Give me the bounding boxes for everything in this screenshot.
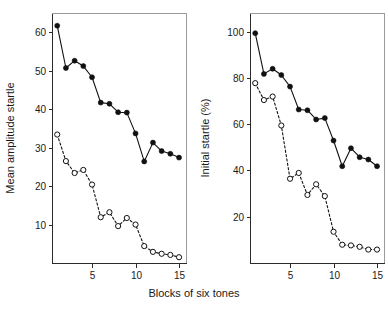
data-point-left-filled-circles-solid-2: [63, 66, 68, 71]
y-axis-title-left: Mean amplitude startle: [4, 82, 16, 193]
y-tick-label-right-100: 100: [227, 27, 244, 38]
y-tick-label-right-60: 60: [233, 119, 245, 130]
x-tick-label-right-5: 5: [288, 270, 294, 281]
data-point-right-filled-circles-solid-13: [357, 155, 362, 160]
x-tick-label-left-15: 15: [174, 270, 186, 281]
data-point-left-filled-circles-solid-6: [98, 100, 103, 105]
x-tick-label-left-5: 5: [90, 270, 96, 281]
data-point-right-filled-circles-solid-2: [261, 71, 266, 76]
data-point-right-open-circles-dashed-8: [314, 182, 319, 187]
data-point-right-open-circles-dashed-1: [253, 81, 258, 86]
y-tick-label-right-20: 20: [233, 212, 245, 223]
data-point-right-open-circles-dashed-7: [305, 192, 310, 197]
data-point-left-filled-circles-solid-7: [107, 101, 112, 106]
data-point-left-filled-circles-solid-15: [177, 155, 182, 160]
data-point-left-open-circles-dashed-11: [142, 243, 147, 248]
y-tick-label-left-10: 10: [35, 220, 47, 231]
data-point-left-filled-circles-solid-9: [124, 110, 129, 115]
data-point-left-open-circles-dashed-5: [89, 182, 94, 187]
data-point-left-open-circles-dashed-12: [150, 249, 155, 254]
y-tick-label-right-80: 80: [233, 73, 245, 84]
data-point-left-open-circles-dashed-3: [72, 170, 77, 175]
data-point-left-filled-circles-solid-14: [168, 151, 173, 156]
data-point-right-filled-circles-solid-8: [314, 117, 319, 122]
y-tick-label-left-20: 20: [35, 181, 47, 192]
y-tick-label-left-60: 60: [35, 27, 47, 38]
y-tick-label-left-30: 30: [35, 143, 47, 154]
data-point-left-open-circles-dashed-15: [176, 255, 181, 260]
series-line-left-filled-circles-solid: [57, 26, 179, 162]
data-point-right-filled-circles-solid-14: [366, 157, 371, 162]
data-point-left-open-circles-dashed-8: [116, 223, 121, 228]
data-point-right-filled-circles-solid-3: [270, 66, 275, 71]
data-point-right-filled-circles-solid-15: [375, 164, 380, 169]
y-axis-title-right: Initial startle (%): [199, 99, 211, 178]
data-point-right-open-circles-dashed-2: [261, 97, 266, 102]
data-point-left-filled-circles-solid-3: [72, 58, 77, 63]
data-point-right-open-circles-dashed-12: [348, 243, 353, 248]
shared-x-axis-title: Blocks of six tones: [148, 287, 240, 299]
plot-frame-right: [251, 14, 385, 264]
data-point-left-filled-circles-solid-8: [116, 110, 121, 115]
data-point-right-filled-circles-solid-12: [348, 146, 353, 151]
data-point-left-filled-circles-solid-13: [159, 149, 164, 154]
data-point-left-filled-circles-solid-12: [150, 140, 155, 145]
data-point-left-open-circles-dashed-13: [159, 251, 164, 256]
panel-left: 10203040506051015Mean amplitude startle: [4, 14, 187, 282]
data-point-left-filled-circles-solid-5: [90, 75, 95, 80]
data-point-right-filled-circles-solid-10: [331, 138, 336, 143]
panel-right: 2040608010051015Initial startle (%): [199, 14, 385, 282]
y-tick-label-left-40: 40: [35, 104, 47, 115]
data-point-right-open-circles-dashed-14: [366, 247, 371, 252]
data-point-left-open-circles-dashed-7: [107, 210, 112, 215]
data-point-left-open-circles-dashed-14: [168, 252, 173, 257]
data-point-right-open-circles-dashed-13: [357, 244, 362, 249]
data-point-left-filled-circles-solid-4: [81, 64, 86, 69]
data-point-right-open-circles-dashed-4: [279, 123, 284, 128]
data-point-right-filled-circles-solid-9: [322, 116, 327, 121]
two-panel-line-chart: 10203040506051015Mean amplitude startle2…: [0, 0, 388, 311]
data-point-left-open-circles-dashed-9: [124, 215, 129, 220]
data-point-left-open-circles-dashed-6: [98, 215, 103, 220]
data-point-left-open-circles-dashed-4: [81, 167, 86, 172]
data-point-right-filled-circles-solid-11: [340, 164, 345, 169]
data-point-right-open-circles-dashed-3: [270, 94, 275, 99]
x-tick-label-right-10: 10: [329, 270, 341, 281]
data-point-left-filled-circles-solid-11: [142, 159, 147, 164]
x-tick-label-left-10: 10: [131, 270, 143, 281]
y-tick-label-right-40: 40: [233, 165, 245, 176]
y-tick-label-left-50: 50: [35, 66, 47, 77]
data-point-right-open-circles-dashed-10: [331, 229, 336, 234]
data-point-right-open-circles-dashed-6: [296, 170, 301, 175]
series-line-right-open-circles-dashed: [255, 83, 377, 249]
data-point-right-open-circles-dashed-9: [322, 194, 327, 199]
data-point-right-filled-circles-solid-6: [296, 107, 301, 112]
data-point-right-filled-circles-solid-4: [279, 73, 284, 78]
data-point-left-open-circles-dashed-10: [133, 222, 138, 227]
data-point-left-filled-circles-solid-1: [55, 23, 60, 28]
data-point-left-open-circles-dashed-2: [63, 158, 68, 163]
data-point-left-open-circles-dashed-1: [55, 132, 60, 137]
data-point-right-open-circles-dashed-5: [287, 176, 292, 181]
data-point-right-filled-circles-solid-1: [253, 31, 258, 36]
data-point-right-filled-circles-solid-7: [305, 108, 310, 113]
data-point-left-filled-circles-solid-10: [133, 131, 138, 136]
data-point-right-open-circles-dashed-11: [340, 242, 345, 247]
x-tick-label-right-15: 15: [372, 270, 384, 281]
data-point-right-filled-circles-solid-5: [288, 84, 293, 89]
figure-container: 10203040506051015Mean amplitude startle2…: [0, 0, 388, 311]
data-point-right-open-circles-dashed-15: [374, 247, 379, 252]
